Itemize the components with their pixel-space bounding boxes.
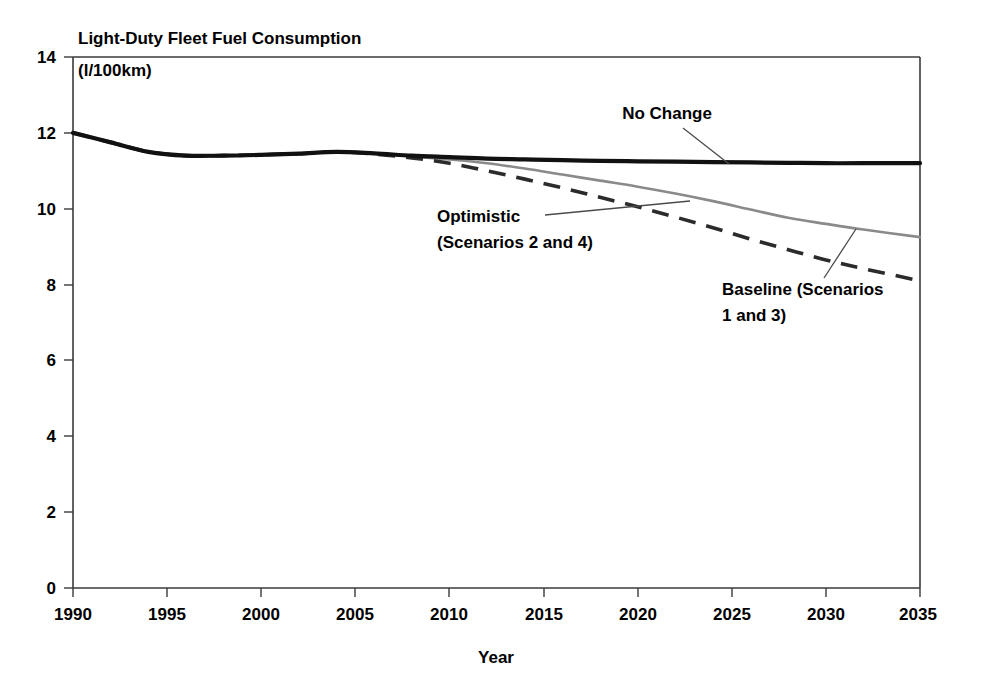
annotation-no-change: No Change — [622, 104, 729, 164]
annotation-baseline: Baseline (Scenarios 1 and 3) — [722, 229, 884, 325]
plot-frame — [73, 57, 920, 588]
y-tick-label-2: 2 — [47, 503, 56, 522]
x-tick-label-1995: 1995 — [148, 605, 186, 624]
y-tick-label-4: 4 — [47, 427, 57, 446]
y-tick-label-12: 12 — [37, 124, 56, 143]
y-tick-label-6: 6 — [47, 351, 56, 370]
x-tick-label-1990: 1990 — [54, 605, 92, 624]
x-tick-label-2020: 2020 — [619, 605, 657, 624]
y-axis-tick-labels: 14 12 10 8 6 4 2 0 — [37, 48, 56, 598]
annotation-baseline-label-line1: Baseline (Scenarios — [722, 280, 884, 299]
annotation-optimistic: Optimistic (Scenarios 2 and 4) — [437, 201, 690, 252]
annotation-optimistic-label-line1: Optimistic — [437, 207, 520, 226]
annotation-no-change-label: No Change — [622, 104, 712, 123]
y-tick-label-14: 14 — [37, 48, 56, 67]
chart-title: Light-Duty Fleet Fuel Consumption — [78, 29, 361, 48]
annotation-no-change-leader — [683, 128, 729, 164]
annotation-optimistic-label-line2: (Scenarios 2 and 4) — [437, 233, 593, 252]
chart-container: 14 12 10 8 6 4 2 0 1990 1995 2000 200 — [0, 0, 981, 692]
x-tick-label-2015: 2015 — [525, 605, 563, 624]
x-tick-label-2025: 2025 — [713, 605, 751, 624]
x-tick-label-2010: 2010 — [430, 605, 468, 624]
x-axis-tick-labels: 1990 1995 2000 2005 2010 2015 2020 2025 … — [54, 605, 937, 624]
x-axis-title: Year — [478, 648, 514, 667]
y-tick-label-8: 8 — [47, 276, 56, 295]
series-line-no-change — [73, 133, 920, 163]
annotation-baseline-label-line2: 1 and 3) — [722, 306, 786, 325]
y-axis-ticks — [64, 57, 73, 588]
y-tick-label-0: 0 — [47, 579, 56, 598]
y-tick-label-10: 10 — [37, 200, 56, 219]
x-tick-label-2000: 2000 — [242, 605, 280, 624]
x-axis-ticks — [73, 588, 920, 597]
x-tick-label-2035: 2035 — [899, 605, 937, 624]
x-tick-label-2030: 2030 — [807, 605, 845, 624]
chart-units-label: (l/100km) — [78, 61, 152, 80]
annotation-optimistic-leader — [545, 201, 690, 215]
annotation-baseline-leader — [824, 229, 856, 278]
x-tick-label-2005: 2005 — [336, 605, 374, 624]
fuel-consumption-line-chart: 14 12 10 8 6 4 2 0 1990 1995 2000 200 — [0, 0, 981, 692]
